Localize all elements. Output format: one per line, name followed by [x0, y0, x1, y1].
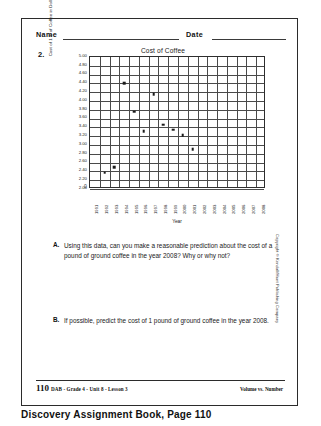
grid-line-vertical — [100, 57, 101, 187]
y-tick-label: 2.40 — [63, 168, 87, 172]
grid-line-vertical — [119, 57, 120, 187]
grid-line-vertical — [217, 57, 218, 187]
x-tick-label: 2004 — [223, 205, 227, 214]
grid-line-horizontal — [90, 136, 264, 137]
x-tick-label: 1998 — [164, 205, 168, 214]
grid-line-horizontal — [90, 171, 264, 172]
grid-line-vertical — [139, 57, 140, 187]
y-tick-label: 4.20 — [63, 89, 87, 93]
x-tick-label: 2002 — [203, 205, 207, 214]
x-tick-label: 2006 — [242, 205, 246, 214]
x-tick-label: 1997 — [154, 205, 158, 214]
grid-line-horizontal — [90, 66, 264, 67]
grid-line-vertical — [129, 57, 130, 187]
data-point — [162, 123, 165, 126]
data-point — [152, 93, 155, 96]
footer-divider — [36, 380, 285, 381]
grid-line-horizontal — [90, 101, 264, 102]
x-tick-label: 2003 — [213, 205, 217, 214]
name-write-line[interactable] — [63, 39, 179, 40]
y-tick-label: 2.60 — [63, 159, 87, 163]
data-point — [182, 134, 185, 137]
y-tick-label: 4.40 — [63, 80, 87, 84]
worksheet-page: Name Date 2. Cost of Coffee Cost of 1 lb… — [21, 18, 298, 406]
grid-line-horizontal — [90, 119, 264, 120]
worksheet-header: Name Date — [36, 29, 285, 43]
grid-line-horizontal — [90, 163, 264, 164]
grid-line-vertical — [207, 57, 208, 187]
data-point — [172, 128, 175, 131]
grid-line-vertical — [168, 57, 169, 187]
x-tick-label: 2008 — [262, 205, 266, 214]
x-tick-label: 2000 — [183, 205, 187, 214]
grid-line-horizontal — [90, 110, 264, 111]
question-a: A. Using this data, can you make a reaso… — [53, 241, 281, 260]
x-tick-label: 1991 — [95, 205, 99, 214]
footer-section: Volume vs. Number — [240, 386, 283, 392]
grid-line-horizontal — [90, 180, 264, 181]
question-b: B. If possible, predict the cost of 1 po… — [53, 316, 281, 326]
question-a-letter: A. — [53, 241, 64, 248]
y-tick-label: 2.20 — [63, 177, 87, 181]
data-point — [113, 166, 116, 169]
y-tick-label: 3.20 — [63, 133, 87, 137]
date-write-line[interactable] — [212, 39, 286, 40]
y-tick-label: 4.00 — [63, 98, 87, 102]
copyright-notice: Copyright © Kendall/Hunt Publishing Comp… — [275, 234, 280, 323]
grid-line-vertical — [158, 57, 159, 187]
data-point — [123, 82, 126, 85]
footer-source: DAB - Grade 4 - Unit 8 - Lesson 3 — [51, 386, 128, 392]
page-number: 110 — [36, 383, 49, 393]
problem-number: 2. — [38, 50, 44, 59]
x-tick-label: 1996 — [144, 205, 148, 214]
y-tick-label: 4.80 — [63, 63, 87, 67]
data-point — [191, 148, 194, 151]
grid-line-horizontal — [90, 127, 264, 128]
y-tick-label: 4.60 — [63, 71, 87, 75]
x-tick-label: 2005 — [232, 205, 236, 214]
grid-line-vertical — [178, 57, 179, 187]
x-tick-label: 1992 — [105, 205, 109, 214]
grid-line-horizontal — [90, 83, 264, 84]
name-label: Name — [36, 30, 57, 39]
plot-area — [89, 56, 265, 188]
grid-line-vertical — [149, 57, 150, 187]
y-axis-ticks: 5.004.804.604.404.204.003.803.603.403.20… — [52, 47, 87, 207]
x-axis-ticks: 1991199219931994199519961997199819992000… — [89, 190, 265, 216]
question-b-text: If possible, predict the cost of 1 pound… — [64, 316, 269, 326]
y-tick-label: 3.00 — [63, 142, 87, 146]
x-tick-label: 1994 — [125, 205, 129, 214]
grid-line-horizontal — [90, 75, 264, 76]
coffee-cost-scatter-chart: Cost of Coffee Cost of 1 lb of Coffee in… — [52, 47, 274, 229]
grid-line-horizontal — [90, 145, 264, 146]
data-point — [103, 171, 106, 174]
grid-line-vertical — [227, 57, 228, 187]
grid-line-horizontal — [90, 154, 264, 155]
y-tick-label: 2.80 — [63, 151, 87, 155]
page-caption: Discovery Assignment Book, Page 110 — [21, 409, 212, 420]
data-point — [142, 130, 145, 133]
question-b-letter: B. — [53, 316, 64, 323]
question-a-text: Using this data, can you make a reasonab… — [64, 241, 281, 260]
data-point — [133, 110, 136, 113]
x-tick-label: 2001 — [193, 205, 197, 214]
grid-line-vertical — [246, 57, 247, 187]
y-tick-label: 3.40 — [63, 124, 87, 128]
y-tick-label: 5.00 — [63, 54, 87, 58]
grid-line-vertical — [256, 57, 257, 187]
grid-line-vertical — [198, 57, 199, 187]
grid-line-vertical — [110, 57, 111, 187]
y-tick-label: 3.80 — [63, 107, 87, 111]
x-tick-label: 1995 — [135, 205, 139, 214]
x-tick-label: 1999 — [174, 205, 178, 214]
axis-break-symbol: 0 — [84, 184, 87, 189]
date-label: Date — [186, 30, 203, 39]
grid-line-vertical — [188, 57, 189, 187]
y-tick-label: 3.60 — [63, 115, 87, 119]
grid-line-horizontal — [90, 92, 264, 93]
x-tick-label: 1993 — [115, 205, 119, 214]
grid-line-vertical — [237, 57, 238, 187]
x-axis-label: Year — [89, 219, 265, 224]
x-tick-label: 2007 — [252, 205, 256, 214]
